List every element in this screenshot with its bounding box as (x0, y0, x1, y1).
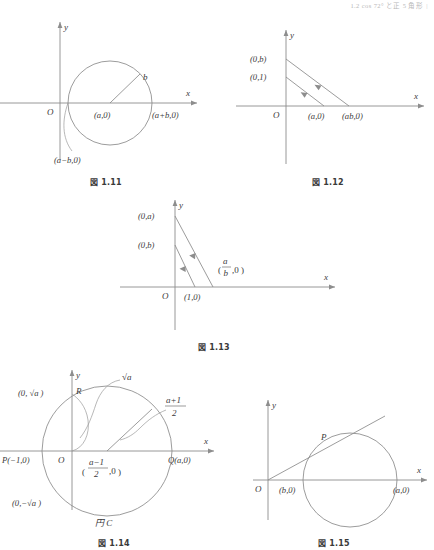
y-axis-arrowhead (70, 370, 75, 376)
segment-b-arrowhead (315, 85, 322, 90)
label-b-0: (b,0) (279, 485, 296, 495)
caption-1-11: 図 1.11 (90, 176, 122, 187)
figure-1-13: x y O (0,a) (0,b) (1,0) ( a b ,0 ) (110, 190, 345, 335)
paren-close-big: ) (118, 467, 121, 477)
radius-segment (110, 74, 140, 103)
caption-1-13: 図 1.13 (198, 341, 230, 352)
running-header-text: 1.2 cos 72° と正 5 角形 (350, 2, 423, 9)
x-axis-label: x (185, 88, 190, 98)
y-axis-label: y (63, 22, 68, 32)
paren-close: ) (241, 265, 244, 275)
origin-label: O (47, 107, 54, 117)
fraction-numerator: a (223, 256, 228, 266)
segment-b-to-1 (175, 245, 195, 287)
segment-a-arrowhead (189, 253, 195, 259)
radius-segment (107, 409, 152, 451)
leader-a-plus-1-over-2 (120, 410, 166, 440)
x-axis-arrowhead (208, 449, 214, 454)
y-axis-arrowhead (58, 22, 63, 28)
y-axis-label: y (271, 400, 276, 410)
x-axis-arrowhead (191, 101, 197, 106)
paren-open: ( (218, 265, 221, 275)
figure-1-14: x y O P(−1,0) Q(a,0) R (0, √a ) (0,−√a )… (0, 358, 230, 526)
label-0-b: (0,b) (138, 240, 155, 250)
x-axis-label: x (323, 272, 328, 282)
label-center-point: ( a−1 2 ,0 ) (82, 457, 121, 479)
y-axis-arrowhead (266, 400, 271, 406)
label-0-1: (0,1) (250, 72, 267, 82)
label-sqrt-a: √a (122, 372, 132, 382)
caption-1-14: 図 1.14 (98, 537, 130, 548)
origin-label: O (273, 110, 280, 120)
label-0-a: (0,a) (138, 211, 155, 221)
segment-b-to-ab (286, 59, 349, 106)
y-axis-label: y (75, 370, 80, 380)
segment-1-to-a (286, 77, 324, 106)
label-0-b: (0,b) (250, 54, 267, 64)
center-tail: ,0 (109, 466, 116, 476)
origin-label: O (255, 484, 262, 494)
segment-1-arrowhead (301, 92, 308, 98)
y-axis-arrowhead (284, 30, 289, 36)
label-0-neg-sqrt-a: (0,−√a ) (12, 498, 41, 508)
y-axis-arrowhead (173, 200, 178, 206)
label-a-minus-b: (a−b,0) (54, 155, 81, 165)
paren-open-big: ( (82, 467, 85, 477)
label-radius-fraction: a+1 2 (165, 395, 186, 418)
fraction-tail: ,0 (232, 265, 239, 275)
arc-O-to-R (72, 394, 88, 451)
document-page: 1.2 cos 72° と正 5 角形| x y O (a,0) b (a+b,… (0, 0, 434, 550)
caption-1-15-text: 図 1.15 (318, 539, 350, 548)
center-denominator: 2 (94, 469, 99, 479)
radius-denominator: 2 (172, 408, 177, 418)
caption-1-12: 図 1.12 (312, 176, 344, 187)
center-numerator: a−1 (89, 457, 104, 467)
tangent-line (268, 416, 385, 480)
label-a-0: (a,0) (308, 111, 325, 121)
x-axis-arrowhead (329, 285, 335, 290)
figure-1-12: x y O (0,b) (0,1) (a,0) (ab,0) (228, 14, 434, 174)
figure-1-15: x y O P (b,0) (a,0) (245, 388, 434, 528)
origin-label: O (162, 291, 169, 301)
label-Q-a: Q(a,0) (168, 455, 191, 465)
leader-a-minus-b (64, 103, 72, 151)
origin-label: O (58, 455, 65, 465)
running-header: 1.2 cos 72° と正 5 角形| (350, 0, 428, 10)
x-axis-label: x (416, 465, 421, 475)
label-0-sqrt-a: (0, √a ) (18, 388, 44, 398)
label-circle-name: 円 C (95, 518, 113, 528)
segment-a-to-a-over-b (175, 216, 213, 287)
label-P-minus-1: P(−1,0) (1, 455, 30, 465)
label-R: R (75, 386, 82, 396)
x-axis-arrowhead (421, 478, 427, 483)
leader-sqrt-a (80, 380, 120, 438)
x-axis-arrowhead (418, 104, 424, 109)
label-radius-b: b (143, 72, 148, 82)
radius-numerator: a+1 (166, 395, 181, 405)
label-1-0: (1,0) (184, 292, 201, 302)
fraction-denominator: b (224, 268, 229, 278)
label-center: (a,0) (94, 110, 111, 120)
label-a-plus-b: (a+b,0) (152, 110, 179, 120)
figure-1-11: x y O (a,0) b (a+b,0) (a−b,0) (0, 8, 215, 173)
label-P-tangent: P (320, 432, 327, 442)
label-a-over-b-point: ( a b ,0 ) (218, 256, 244, 278)
y-axis-label: y (289, 30, 294, 40)
caption-1-13-text: 図 1.13 (198, 343, 230, 352)
caption-1-12-text: 図 1.12 (312, 178, 344, 187)
x-axis-label: x (413, 91, 418, 101)
label-ab-0: (ab,0) (342, 111, 363, 121)
segment-b-arrowhead (180, 266, 186, 272)
caption-1-11-text: 図 1.11 (90, 178, 122, 187)
running-header-rule: | (426, 2, 428, 9)
label-a-0: (a,0) (393, 485, 410, 495)
y-axis-label: y (178, 200, 183, 210)
x-axis-label: x (203, 436, 208, 446)
caption-1-14-text: 図 1.14 (98, 539, 130, 548)
caption-1-15: 図 1.15 (318, 537, 350, 548)
